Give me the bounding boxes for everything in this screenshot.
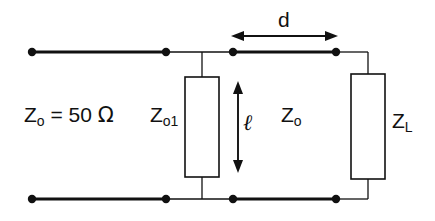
ohm-unit-icon: Ω	[98, 103, 114, 127]
d-arrow-head-left-icon	[231, 31, 244, 41]
label-distance-d: d	[278, 9, 290, 30]
circuit-diagram: Zo = 50 Ω Zo1 Zo ZL d ℓ	[0, 0, 435, 221]
label-load-impedance: ZL	[392, 110, 413, 131]
label-load-impedance-symbol: Z	[392, 109, 405, 132]
label-source-impedance-subscript: o	[37, 113, 45, 129]
node-dot-bottom-left-inner	[162, 195, 170, 203]
label-load-impedance-subscript: L	[405, 119, 413, 135]
label-stub-impedance-subscript: o1	[163, 113, 179, 129]
label-line-impedance: Zo	[281, 104, 302, 125]
node-dot-bottom-load	[332, 195, 340, 203]
label-line-impedance-subscript: o	[294, 113, 302, 129]
node-dot-top-load	[332, 48, 340, 56]
node-dot-top-stub-junction	[229, 48, 237, 56]
node-dot-top-left-terminal	[28, 48, 36, 56]
node-dot-bottom-left-terminal	[28, 195, 36, 203]
ell-arrow-head-top-icon	[233, 81, 243, 94]
d-arrow-head-right-icon	[325, 31, 338, 41]
label-line-impedance-symbol: Z	[281, 103, 294, 126]
stub-impedance-box	[185, 77, 219, 177]
ell-arrow-head-bottom-icon	[233, 160, 243, 173]
label-source-impedance-value: = 50	[45, 103, 98, 126]
load-impedance-box	[351, 74, 385, 179]
label-stub-length-ell: ℓ	[243, 112, 252, 134]
label-stub-impedance: Zo1	[150, 104, 178, 125]
node-dot-bottom-stub-junction	[229, 195, 237, 203]
label-stub-impedance-symbol: Z	[150, 103, 163, 126]
label-source-impedance: Zo = 50 Ω	[24, 104, 114, 126]
node-dot-top-left-inner	[162, 48, 170, 56]
label-source-impedance-symbol: Z	[24, 103, 37, 126]
